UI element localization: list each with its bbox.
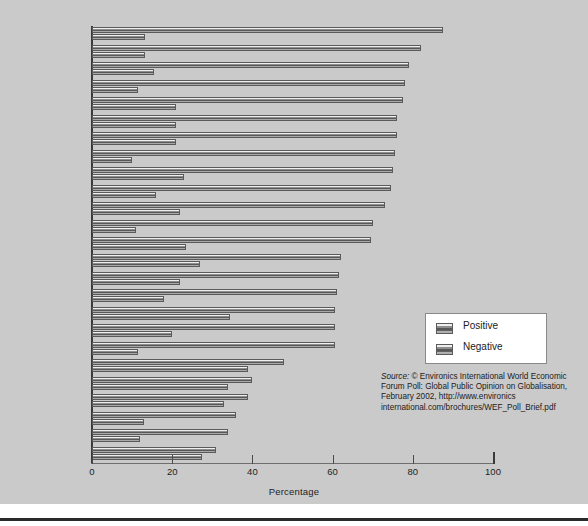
bar-positive (92, 272, 339, 278)
bar-negative (92, 349, 138, 355)
bar-negative (92, 139, 176, 145)
x-axis-tick (493, 452, 495, 464)
bar-positive (92, 80, 405, 86)
bar-row: Netherlands (92, 26, 493, 43)
bar-negative (92, 87, 138, 93)
source-note: Source: © Environics International World… (381, 372, 587, 413)
bar-positive (92, 324, 335, 330)
bar-row: Brazil (92, 253, 493, 270)
bar-positive (92, 307, 335, 313)
source-body: © Environics International World Economi… (381, 372, 567, 412)
bar-positive (92, 429, 228, 435)
bar-negative (92, 279, 180, 285)
bar-positive (92, 167, 393, 173)
legend-label-positive: Positive (463, 320, 498, 331)
bar-positive (92, 132, 397, 138)
bar-positive (92, 45, 421, 51)
bar-negative (92, 69, 154, 75)
bar-negative (92, 104, 176, 110)
bar-row: Russia (92, 411, 493, 428)
bar-row: Indonesia (92, 183, 493, 200)
bar-negative (92, 192, 156, 198)
bar-positive (92, 447, 216, 453)
bar-row: Canada (92, 166, 493, 183)
bar-negative (92, 401, 224, 407)
bar-negative (92, 331, 172, 337)
x-axis-tick-label: 60 (313, 466, 353, 477)
bar-row: Great Britain (92, 201, 493, 218)
bar-positive (92, 115, 397, 121)
figure-page: Country NetherlandsVenezuelaIndiaQatarGe… (0, 0, 588, 526)
bar-negative (92, 454, 202, 460)
bar-negative (92, 296, 164, 302)
bar-row: Germany (92, 96, 493, 113)
bar-negative (92, 314, 230, 320)
page-bottom-margin (0, 504, 588, 518)
bar-negative (92, 261, 200, 267)
x-axis-tick-label: 100 (473, 466, 513, 477)
bar-row: South Africa (92, 288, 493, 305)
bar-row: Venezuela (92, 43, 493, 60)
bar-positive (92, 394, 248, 400)
bar-negative (92, 384, 228, 390)
bar-row: Italy (92, 271, 493, 288)
positive-swatch (436, 323, 453, 334)
bar-positive (92, 359, 284, 365)
x-axis-tick-label: 80 (393, 466, 433, 477)
bar-positive (92, 377, 252, 383)
bar-row: India (92, 61, 493, 78)
bar-positive (92, 254, 341, 260)
x-axis-tick-label: 20 (152, 466, 192, 477)
chart-legend: Positive Negative (425, 313, 547, 364)
bar-negative (92, 34, 145, 40)
bar-positive (92, 62, 409, 68)
bar-positive (92, 27, 443, 33)
x-axis-tick-label: 40 (232, 466, 272, 477)
bar-positive (92, 220, 373, 226)
bar-positive (92, 289, 337, 295)
x-axis-tick (413, 455, 414, 464)
bar-negative (92, 366, 248, 372)
x-axis-title: Percentage (0, 486, 588, 497)
bar-negative (92, 209, 180, 215)
bar-row: Nigeria (92, 218, 493, 235)
source-prefix: Source: (381, 372, 409, 381)
page-bottom-edge (0, 521, 588, 526)
x-axis-tick (252, 455, 253, 464)
bar-positive (92, 412, 236, 418)
bar-row: United States (92, 113, 493, 130)
bar-row: Japan (92, 428, 493, 445)
bar-positive (92, 97, 403, 103)
bar-negative (92, 436, 140, 442)
bar-positive (92, 237, 371, 243)
bar-positive (92, 342, 335, 348)
bar-negative (92, 244, 186, 250)
bar-row: Mexico (92, 236, 493, 253)
x-axis-tick (333, 455, 334, 464)
x-axis-line (91, 463, 494, 464)
x-axis-tick (172, 455, 173, 464)
bar-negative (92, 419, 144, 425)
bar-row: Korea, Rep. (92, 131, 493, 148)
bar-row: China (92, 148, 493, 165)
negative-swatch (436, 344, 453, 355)
x-axis-tick (92, 455, 93, 464)
bar-negative (92, 122, 176, 128)
bar-row: Turkey (92, 446, 493, 463)
bar-row: Qatar (92, 78, 493, 95)
bar-negative (92, 157, 132, 163)
bar-negative (92, 174, 184, 180)
bar-positive (92, 202, 385, 208)
bar-positive (92, 185, 391, 191)
bar-negative (92, 227, 136, 233)
legend-label-negative: Negative (463, 341, 502, 352)
x-axis-tick-label: 0 (72, 466, 112, 477)
bar-negative (92, 52, 145, 58)
bar-positive (92, 150, 395, 156)
